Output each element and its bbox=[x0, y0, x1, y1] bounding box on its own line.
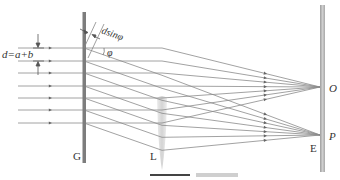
zero-order-focused-ray bbox=[162, 87, 320, 110]
ray-arrow-icon bbox=[264, 134, 267, 137]
diffracted-focused-ray bbox=[162, 88, 320, 135]
ray-arrow-icon bbox=[264, 139, 267, 142]
ray-arrow-icon bbox=[49, 121, 52, 124]
zero-order-focused-ray bbox=[162, 86, 320, 87]
path-difference-label: dsinφ bbox=[100, 25, 125, 43]
grating-bar bbox=[83, 12, 87, 163]
ray-arrow-icon bbox=[264, 121, 267, 124]
ray-arrow-icon bbox=[49, 96, 52, 99]
ray-arrow-icon bbox=[264, 89, 267, 92]
ray-arrow-icon bbox=[49, 108, 52, 111]
screen-label: E bbox=[310, 142, 317, 154]
ray-arrow-icon bbox=[264, 130, 267, 133]
diffracted-ray bbox=[84, 61, 162, 88]
ray-arrow-icon bbox=[264, 85, 267, 88]
focus-p-label: P bbox=[328, 130, 336, 142]
diffracted-ray bbox=[84, 73, 162, 100]
caption-text-fragment bbox=[196, 173, 238, 177]
zero-order-focused-ray bbox=[162, 61, 320, 87]
diffracted-focused-ray bbox=[162, 113, 320, 135]
caption-bar bbox=[150, 174, 190, 176]
diffraction-diagram: d=a+b dsinφ φ G L E O P bbox=[0, 0, 340, 180]
angle-arc bbox=[103, 48, 104, 55]
grating-label: G bbox=[73, 150, 81, 162]
ray-arrow-icon bbox=[49, 84, 52, 87]
slit-spacing-dimension bbox=[33, 34, 44, 75]
ray-arrow-icon bbox=[264, 72, 267, 75]
diffracted-ray bbox=[84, 48, 162, 75]
focus-o-label: O bbox=[329, 82, 337, 94]
screen-bar bbox=[320, 5, 325, 172]
lens-shape bbox=[157, 96, 167, 170]
diffracted-ray bbox=[84, 110, 162, 137]
lens-label: L bbox=[150, 150, 157, 162]
angle-label: φ bbox=[107, 47, 113, 58]
ray-arrow-icon bbox=[264, 80, 267, 83]
ray-arrow-icon bbox=[49, 46, 52, 49]
ray-arrow-icon bbox=[264, 76, 267, 79]
diagram-canvas: d=a+b dsinφ φ G L E O P bbox=[0, 0, 340, 180]
ray-arrow-icon bbox=[264, 98, 267, 101]
diffracted-ray bbox=[84, 86, 162, 113]
ray-group bbox=[18, 46, 320, 150]
slit-spacing-label: d=a+b bbox=[2, 48, 34, 60]
ray-arrow-icon bbox=[49, 71, 52, 74]
ray-arrow-icon bbox=[49, 59, 52, 62]
diffracted-ray bbox=[84, 98, 162, 125]
zero-order-focused-ray bbox=[162, 73, 320, 87]
diffracted-ray bbox=[84, 123, 162, 150]
zero-order-focused-ray bbox=[162, 48, 320, 87]
